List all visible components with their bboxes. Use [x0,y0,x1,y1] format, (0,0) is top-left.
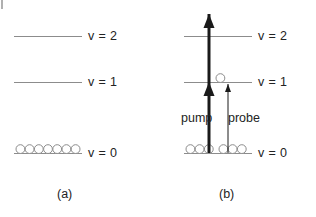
population-circle-b-v0 [237,145,246,154]
level-label-b-v2: v = 2 [258,30,287,43]
level-label-a-v1: v = 1 [88,76,117,89]
population-circle-b-v0 [219,145,228,154]
population-circle-a-v0 [34,145,43,154]
population-circle-a-v0 [53,145,62,154]
population-circle-a-v0 [71,145,80,154]
probe-arrow-label: probe [228,112,260,125]
pump-arrow-head [204,14,215,28]
level-label-a-v0: v = 0 [88,147,117,160]
pump-arrow-head [204,82,215,96]
panel-caption-b: (b) [219,188,234,201]
population-circle-a-v0 [62,145,71,154]
population-circle-a-v0 [44,145,53,154]
population-circle-b-v0 [195,145,204,154]
panel-caption-a: (a) [57,188,72,201]
level-label-a-v2: v = 2 [88,30,117,43]
population-circle-a-v0 [16,145,25,154]
level-label-b-v1: v = 1 [258,76,287,89]
pump-arrow-label: pump [181,112,212,125]
level-label-b-v0: v = 0 [258,147,287,160]
pump-arrow[interactable] [204,14,215,153]
figure-canvas: v = 2 v = 1 v = 0 (a) v = 2 v = 1 v = 0 … [0,0,316,217]
probe-arrow-head [225,84,231,92]
population-circle-b-v0 [186,145,195,154]
population-circle-b-v1 [216,74,225,83]
population-circle-b-v0 [228,145,237,154]
population-circle-a-v0 [25,145,34,154]
